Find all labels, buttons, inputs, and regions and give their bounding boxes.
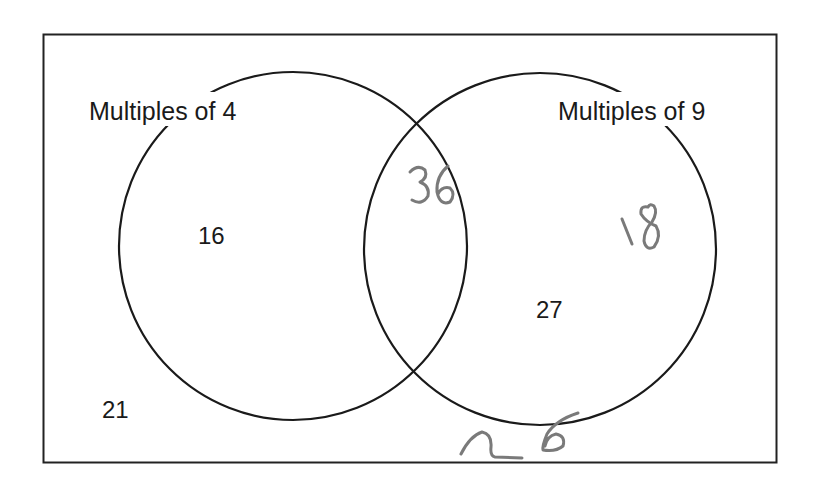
set-a-label: Multiples of 4 — [89, 97, 236, 125]
number-b-only: 27 — [536, 296, 563, 323]
handwritten-18 — [622, 205, 659, 248]
number-outside: 21 — [102, 396, 129, 423]
venn-diagram: Multiples of 4 Multiples of 9 16 27 21 — [0, 0, 825, 495]
number-a-only: 16 — [198, 222, 225, 249]
set-b-label: Multiples of 9 — [558, 97, 705, 125]
handwritten-26 — [461, 413, 578, 458]
handwritten-36 — [410, 166, 453, 203]
